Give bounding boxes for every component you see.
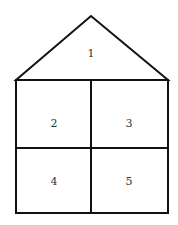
house-diagram <box>0 0 178 225</box>
region-2-label: 2 <box>51 117 58 130</box>
region-5-label: 5 <box>126 175 133 188</box>
region-1-label: 1 <box>88 47 95 60</box>
region-3-label: 3 <box>126 117 133 130</box>
region-4-label: 4 <box>51 175 58 188</box>
